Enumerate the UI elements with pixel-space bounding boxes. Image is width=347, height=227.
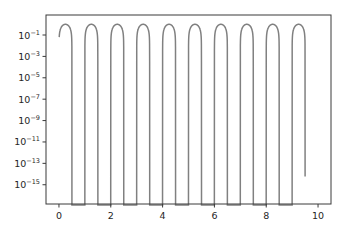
- y-tick-label: 10−13: [14, 157, 40, 169]
- x-tick-label: 0: [56, 210, 62, 221]
- y-axis-ticks: 10−110−310−510−710−910−1110−1310−15: [14, 29, 46, 191]
- y-tick-label: 10−15: [14, 178, 40, 190]
- x-tick-label: 2: [108, 210, 114, 221]
- x-axis-ticks: 0246810: [56, 204, 324, 221]
- y-tick-label: 10−3: [18, 50, 40, 62]
- series-line: [59, 24, 305, 205]
- x-tick-label: 6: [211, 210, 217, 221]
- y-tick-label: 10−7: [18, 93, 40, 105]
- log-scale-line-chart: 0246810 10−110−310−510−710−910−1110−1310…: [0, 0, 347, 227]
- y-tick-label: 10−1: [18, 29, 40, 41]
- y-tick-label: 10−11: [14, 135, 40, 147]
- x-tick-label: 4: [160, 210, 166, 221]
- x-tick-label: 10: [312, 210, 324, 221]
- data-series-line: [59, 24, 305, 205]
- y-tick-label: 10−5: [18, 71, 40, 83]
- x-tick-label: 8: [263, 210, 269, 221]
- y-tick-label: 10−9: [18, 114, 40, 126]
